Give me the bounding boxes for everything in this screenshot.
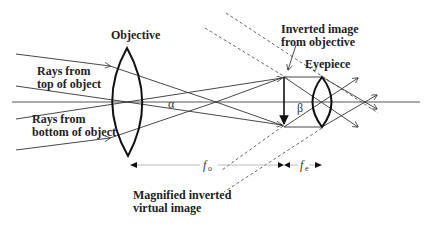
inverted-image-label-line1: Inverted image: [281, 22, 359, 36]
fo-label-subscript: o: [208, 164, 212, 173]
magnified-image-label-line1: Magnified inverted: [133, 188, 232, 202]
ray-bottom-incoming-2: [16, 138, 110, 150]
rays-bottom-label-line2: bottom of object: [32, 125, 116, 139]
rays-top-label-line2: top of object: [37, 77, 101, 91]
diagram-canvas: Objective Rays from top of object Rays f…: [0, 0, 434, 229]
virtual-ray-dashed-2: [205, 28, 290, 80]
fe-label-subscript: e: [305, 164, 309, 173]
objective-label: Objective: [111, 28, 161, 42]
virtual-ray-dashed-3: [222, 126, 283, 170]
fo-right-arrowhead: [278, 162, 284, 168]
rays-top-label-line1: Rays from: [37, 64, 90, 78]
eyepiece-label: Eyepiece: [305, 57, 351, 71]
ray-to-image-top-a: [216, 77, 284, 102]
magnified-image-label-line2: virtual image: [133, 201, 202, 215]
virtual-ray-dashed-4: [224, 128, 322, 192]
alpha-angle-label: α: [168, 97, 175, 111]
fe-right-arrowhead: [315, 162, 322, 168]
beta-angle-label: β: [297, 101, 303, 115]
inverted-image-label-line2: from objective: [281, 35, 356, 49]
ray-to-image-bottom-a: [216, 102, 284, 126]
fe-left-arrowhead: [284, 162, 290, 168]
rays-bottom-label-line1: Rays from: [32, 112, 85, 126]
fo-left-arrowhead: [130, 162, 137, 168]
microscope-diagram: Objective Rays from top of object Rays f…: [0, 0, 434, 229]
